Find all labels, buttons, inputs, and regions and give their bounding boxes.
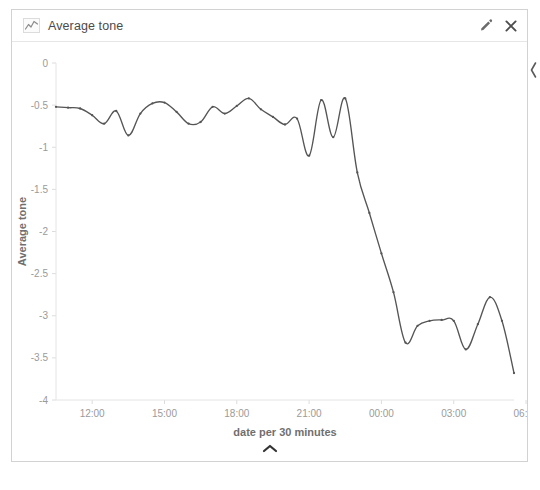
data-point[interactable] [368, 212, 370, 214]
y-tick-label: -3.5 [31, 352, 49, 363]
data-point[interactable] [428, 320, 430, 322]
x-tick-label: 18:00 [224, 408, 249, 419]
data-point[interactable] [501, 320, 503, 322]
data-point[interactable] [465, 348, 467, 350]
x-axis-title-group: date per 30 minutes [233, 426, 336, 438]
data-point[interactable] [416, 325, 418, 327]
data-point[interactable] [91, 114, 93, 116]
y-axis-ticks-group: 0-0.5-1-1.5-2-2.5-3-3.5-4 [31, 58, 56, 406]
x-tick-label: 21:00 [297, 408, 322, 419]
widget-header: Average tone [12, 10, 527, 42]
data-point[interactable] [236, 105, 238, 107]
data-point[interactable] [453, 320, 455, 322]
y-tick-label: -2.5 [31, 268, 49, 279]
data-point[interactable] [139, 112, 141, 114]
close-icon[interactable] [504, 19, 518, 33]
chart-plot-area: Average tone 0-0.5-1-1.5-2-2.5-3-3.5-4 1… [12, 42, 527, 461]
data-point[interactable] [79, 107, 81, 109]
data-point[interactable] [344, 97, 346, 99]
x-tick-label: 12:00 [80, 408, 105, 419]
y-tick-label: -1.5 [31, 184, 49, 195]
pencil-icon[interactable] [479, 19, 493, 33]
data-point[interactable] [163, 101, 165, 103]
series-line [56, 98, 514, 373]
y-axis-title: Average tone [16, 197, 28, 266]
x-axis-ticks-group: 12:0015:0018:0021:0000:0003:0006:00 [80, 400, 527, 419]
data-point[interactable] [115, 110, 117, 112]
data-point[interactable] [103, 123, 105, 125]
data-point[interactable] [513, 372, 515, 374]
data-point[interactable] [248, 97, 250, 99]
y-tick-label: -4 [39, 395, 48, 406]
data-point[interactable] [224, 112, 226, 114]
x-axis-title: date per 30 minutes [233, 426, 336, 438]
chevron-left-icon[interactable] [528, 57, 539, 83]
data-point[interactable] [296, 117, 298, 119]
data-point[interactable] [187, 123, 189, 125]
y-tick-label: -3 [39, 310, 48, 321]
page-title: Average tone [48, 19, 123, 33]
chevron-up-icon[interactable] [261, 443, 279, 454]
line-chart-icon [23, 18, 40, 33]
data-point[interactable] [55, 106, 57, 108]
y-tick-label: 0 [42, 58, 48, 69]
data-point[interactable] [332, 136, 334, 138]
y-axis-title-group: Average tone [16, 197, 28, 266]
data-point[interactable] [441, 319, 443, 321]
data-point[interactable] [67, 107, 69, 109]
y-tick-label: -1 [39, 142, 48, 153]
data-point[interactable] [272, 116, 274, 118]
data-point[interactable] [175, 111, 177, 113]
axis-lines-group [56, 63, 514, 400]
data-point[interactable] [356, 171, 358, 173]
data-point[interactable] [477, 323, 479, 325]
data-point[interactable] [284, 123, 286, 125]
x-tick-label: 00:00 [369, 408, 394, 419]
data-point[interactable] [489, 296, 491, 298]
y-tick-label: -0.5 [31, 100, 49, 111]
series-group [55, 97, 515, 374]
data-point[interactable] [212, 106, 214, 108]
data-point[interactable] [404, 342, 406, 344]
data-point[interactable] [380, 252, 382, 254]
x-tick-label: 03:00 [441, 408, 466, 419]
data-point[interactable] [392, 291, 394, 293]
y-tick-label: -2 [39, 226, 48, 237]
header-actions [479, 19, 518, 33]
chart-widget-panel: Average tone Average tone 0-0.5-1-1.5-2-… [11, 9, 528, 462]
x-tick-label: 15:00 [152, 408, 177, 419]
x-tick-label: 06:00 [514, 408, 527, 419]
data-point[interactable] [127, 134, 129, 136]
data-point[interactable] [151, 102, 153, 104]
data-point[interactable] [308, 155, 310, 157]
data-point[interactable] [320, 99, 322, 101]
data-point[interactable] [199, 121, 201, 123]
data-point[interactable] [260, 108, 262, 110]
line-chart-svg: Average tone 0-0.5-1-1.5-2-2.5-3-3.5-4 1… [12, 42, 527, 461]
